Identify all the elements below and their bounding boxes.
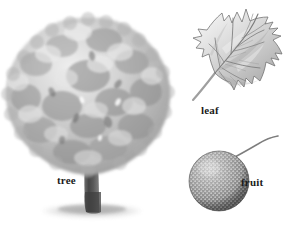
fruit-seedball xyxy=(189,151,249,211)
leaf-svg xyxy=(176,4,292,108)
fruit-label: fruit xyxy=(241,177,263,188)
fruit-svg xyxy=(186,136,292,216)
leaf-label: leaf xyxy=(201,105,219,116)
leaf-illustration xyxy=(176,4,292,108)
leaf-petiole xyxy=(193,73,215,100)
tree-svg xyxy=(0,6,178,225)
tree-canopy xyxy=(1,12,175,178)
botanical-plate: tree xyxy=(0,0,292,225)
tree-label: tree xyxy=(57,175,76,186)
leaf-blade xyxy=(193,9,282,90)
fruit-illustration xyxy=(186,136,292,216)
tree-illustration xyxy=(0,6,178,225)
